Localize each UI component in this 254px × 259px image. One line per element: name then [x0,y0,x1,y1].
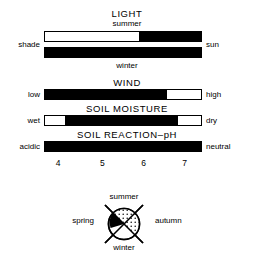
light-winter-segment-full [45,48,201,57]
wind-left-label: low [0,90,40,100]
soil-reaction-left-label: acidic [0,142,40,152]
light-right-label: sun [206,40,219,50]
ph-tick-6: 6 [141,157,146,169]
light-winter-bar [44,47,202,58]
winter-sublabel: winter [0,61,254,71]
soil-moisture-section-title: SOIL MOISTURE [0,103,254,114]
wind-bar [44,89,202,100]
soil-reaction-section-title: SOIL REACTION–pH [0,129,254,140]
ph-tick-5: 5 [100,157,105,169]
soil-moisture-right-label: dry [206,116,217,126]
ph-scale: 4 5 6 7 [44,157,202,171]
habitat-requirements-figure: LIGHT summer shade sun winter WIND low h… [0,0,254,259]
ph-tick-4: 4 [56,157,61,169]
summer-sublabel: summer [0,19,254,29]
season-label-autumn: autumn [155,216,182,226]
soil-moisture-bar [44,115,202,126]
season-label-summer: summer [98,192,150,202]
light-section-title: LIGHT [0,8,254,19]
light-summer-bar [44,31,202,42]
light-summer-segment-sun [139,32,201,41]
soil-moisture-segment-mid [65,116,177,125]
soil-reaction-segment-full [45,142,201,151]
light-left-label: shade [0,40,40,50]
soil-moisture-left-label: wet [0,116,40,126]
season-wheel-diagram [98,201,150,247]
soil-reaction-bar [44,141,202,152]
wind-section-title: WIND [0,77,254,88]
wind-segment-high [167,90,201,99]
wind-segment-low [45,90,167,99]
ph-tick-7: 7 [182,157,187,169]
soil-reaction-right-label: neutral [206,142,230,152]
season-label-winter: winter [98,243,150,253]
season-label-spring: spring [0,216,94,226]
wind-right-label: high [206,90,221,100]
light-summer-segment-shade [45,32,139,41]
season-wheel [98,201,150,247]
soil-moisture-segment-dry [178,116,201,125]
soil-moisture-segment-wet [45,116,65,125]
